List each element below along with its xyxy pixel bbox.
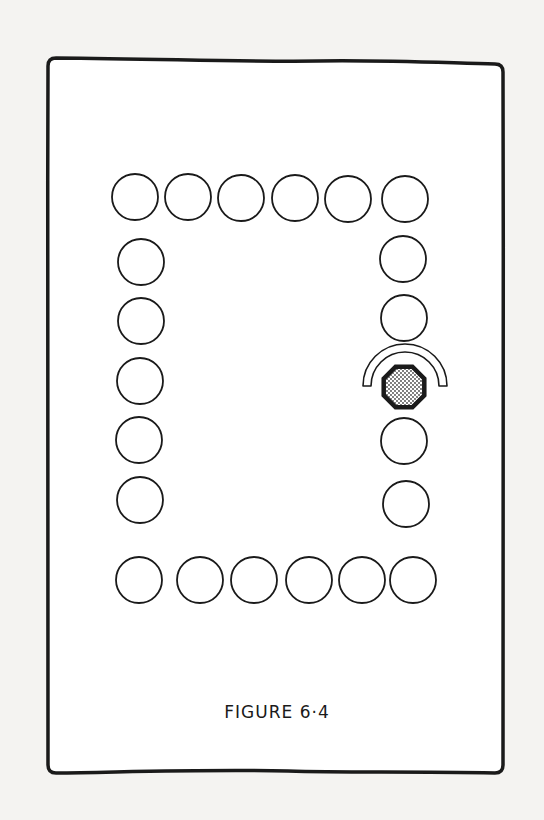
figure-svg [0, 0, 544, 820]
figure-canvas: FIGURE 6·4 [0, 0, 544, 820]
figure-caption: FIGURE 6·4 [0, 702, 544, 722]
page-frame [48, 58, 504, 773]
octagon-shape [384, 367, 425, 408]
frame-border [48, 58, 504, 773]
octagon-marker-icon [384, 367, 425, 408]
